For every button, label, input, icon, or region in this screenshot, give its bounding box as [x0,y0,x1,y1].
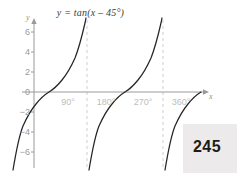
y-tick-label: −4 [16,127,30,137]
tangent-branch-2 [89,18,162,170]
y-tick-label: 0 [16,87,30,97]
y-axis-tick-labels: 6 4 2 0 −2 −4 −6 [14,0,30,173]
x-tick-label: 180° [97,97,116,107]
page-number: 245 [183,138,231,156]
x-axis-label: x [209,92,213,101]
x-tick-label: 360° [172,97,191,107]
chart-title: y = tan(x – 45°) [0,7,237,18]
y-tick-label: 2 [16,67,30,77]
y-axis-arrow [31,18,36,24]
x-tick-label: 270° [134,97,153,107]
y-tick-label: −2 [16,107,30,117]
y-tick-label: 6 [16,27,30,37]
y-tick-label: −6 [16,147,30,157]
y-tick-label: 4 [16,47,30,57]
tangent-graph-figure: y = tan(x – 45°) y x 6 4 2 0 −2 −4 −6 90… [0,0,237,173]
x-tick-label: 90° [61,97,75,107]
